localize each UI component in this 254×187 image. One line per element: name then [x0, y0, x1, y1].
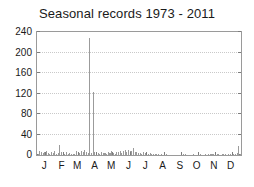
bar: [200, 154, 201, 155]
bar: [185, 154, 186, 155]
bar: [161, 154, 162, 155]
chart-figure: Seasonal records 1973 - 2011 04080120160…: [0, 0, 254, 187]
x-tick-label: A: [91, 160, 98, 171]
x-tick-label: N: [210, 160, 217, 171]
bar: [205, 154, 206, 155]
y-tick-label: 120: [2, 87, 32, 98]
x-tick-mark: [45, 152, 46, 155]
x-tick-label: J: [143, 160, 148, 171]
y-tick-label: 200: [2, 46, 32, 57]
y-tick-label: 0: [2, 149, 32, 160]
x-tick-mark: [63, 152, 64, 155]
bar: [166, 154, 167, 155]
x-tick-label: J: [42, 160, 47, 171]
y-tick-label: 160: [2, 67, 32, 78]
x-tick-label: D: [227, 160, 234, 171]
bar-series: [37, 32, 241, 155]
x-tick-mark: [78, 152, 79, 155]
x-tick-label: F: [59, 160, 65, 171]
y-tick-label: 80: [2, 108, 32, 119]
y-tick-label: 40: [2, 128, 32, 139]
x-tick-label: A: [159, 160, 166, 171]
plot-area: [36, 31, 242, 156]
bar: [93, 92, 94, 155]
x-tick-mark: [146, 152, 147, 155]
x-tick-mark: [215, 152, 216, 155]
x-tick-label: S: [176, 160, 183, 171]
bar: [225, 154, 226, 155]
x-tick-mark: [198, 152, 199, 155]
bar: [240, 154, 241, 155]
x-tick-mark: [232, 152, 233, 155]
bar: [158, 154, 159, 155]
bar: [193, 154, 194, 155]
x-tick-label: M: [107, 160, 115, 171]
bar: [218, 154, 219, 155]
x-axis-labels: JFMAMJJASOND: [36, 160, 242, 178]
x-tick-mark: [96, 152, 97, 155]
x-tick-label: O: [193, 160, 201, 171]
x-tick-mark: [181, 152, 182, 155]
x-tick-mark: [164, 152, 165, 155]
x-tick-label: M: [73, 160, 81, 171]
y-tick-label: 240: [2, 26, 32, 37]
x-tick-mark: [130, 152, 131, 155]
x-tick-mark: [112, 152, 113, 155]
x-tick-label: J: [126, 160, 131, 171]
bar: [89, 38, 90, 155]
